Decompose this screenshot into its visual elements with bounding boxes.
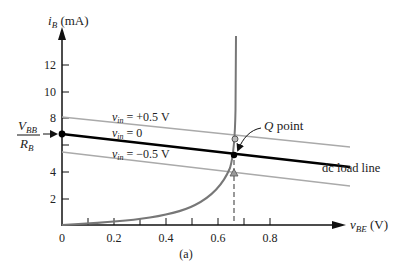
transistor-load-line-diagram: 2 4 8 10 12 0 0.2 0.4 0.6 0.8 iB (mA) vB… (0, 0, 404, 267)
x-tick-0: 0 (59, 231, 65, 245)
load-line-plus (62, 117, 350, 147)
q-point-arrow-icon (238, 128, 261, 150)
x-tick-0-2: 0.2 (107, 231, 122, 245)
y-axis-arrow-icon (58, 27, 66, 40)
label-vin-plus: vin = +0.5 V (112, 110, 170, 125)
y-tick-4: 4 (50, 165, 56, 179)
q-point-icon (231, 152, 237, 158)
label-vin-minus: vin = −0.5 V (112, 147, 170, 162)
y-tick-8: 8 (50, 111, 56, 125)
dc-load-line-label: dc load line (322, 161, 381, 175)
y-tick-12: 12 (44, 58, 56, 72)
x-tick-labels: 0 0.2 0.4 0.6 0.8 (59, 231, 278, 245)
x-tick-0-6: 0.6 (211, 231, 226, 245)
y-intercept-point-icon (59, 131, 66, 138)
x-tick-0-8: 0.8 (263, 231, 278, 245)
x-tick-0-4: 0.4 (159, 231, 174, 245)
y-tick-10: 10 (44, 85, 56, 99)
q-point-label: Q point (264, 118, 304, 133)
label-vin-zero: vin = 0 (112, 126, 142, 141)
load-line-minus (62, 152, 350, 186)
y-axis-label: iB (mA) (48, 13, 89, 30)
x-axis-arrow-icon (332, 221, 346, 229)
y-tick-2: 2 (50, 192, 56, 206)
dc-load-line (62, 134, 350, 167)
svg-text:VBB: VBB (18, 118, 37, 135)
x-axis-label: vBE (V) (350, 217, 388, 234)
svg-text:RB: RB (19, 136, 34, 153)
upper-operating-point-icon (232, 136, 238, 142)
y-tick-labels: 2 4 8 10 12 (44, 58, 56, 206)
input-characteristic-curve (62, 36, 236, 225)
figure-caption: (a) (179, 247, 192, 261)
